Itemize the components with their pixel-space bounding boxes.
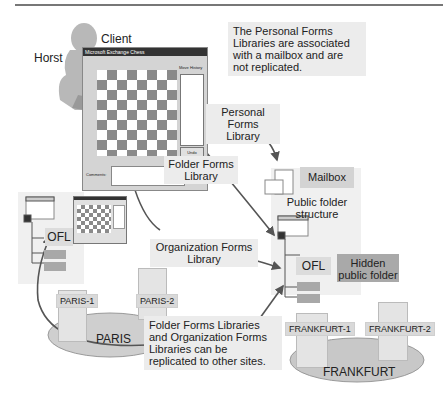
folder-item-left-2 xyxy=(44,262,66,271)
chess-board[interactable] xyxy=(97,70,177,156)
comments-label: Comments: xyxy=(86,172,106,177)
server-label-frankfurt-1: FRANKFURT-1 xyxy=(285,322,355,336)
replication-note: Folder Forms Libraries and Organization … xyxy=(144,316,282,370)
hidden-public-folder: Hidden public folder xyxy=(337,254,399,282)
personal-forms-library-callout: Personal Forms Library xyxy=(206,104,280,144)
site-label-frankfurt: FRANKFURT xyxy=(323,365,395,379)
folder-item-left-1 xyxy=(44,250,66,259)
folder-item-right-2 xyxy=(297,294,320,303)
paris-chess-thumbnail xyxy=(73,196,127,244)
move-history-list[interactable] xyxy=(180,74,204,146)
organization-forms-library-callout: Organization Forms Library xyxy=(150,239,258,267)
client-label: Client xyxy=(101,33,132,45)
ofl-right: OFL xyxy=(296,257,331,275)
ofl-left: OFL xyxy=(45,228,73,246)
folder-forms-library-callout: Folder Forms Library xyxy=(164,156,238,184)
folder-item-right-1 xyxy=(297,282,320,291)
move-history-label: Move History xyxy=(179,65,202,70)
mailbox-label: Mailbox xyxy=(300,167,354,188)
server-label-frankfurt-2: FRANKFURT-2 xyxy=(365,322,435,336)
mailbox-icon xyxy=(265,170,293,194)
personal-forms-note: The Personal Forms Libraries are associa… xyxy=(228,22,366,76)
public-folder-structure-label: Public folder structure xyxy=(276,196,358,220)
server-label-paris-2: PARIS-2 xyxy=(136,294,178,308)
user-label-horst: Horst xyxy=(34,52,63,64)
window-titlebar: Microsoft Exchange Chess xyxy=(83,48,207,56)
site-label-paris: PARIS xyxy=(96,332,131,346)
server-label-paris-1: PARIS-1 xyxy=(56,294,98,308)
